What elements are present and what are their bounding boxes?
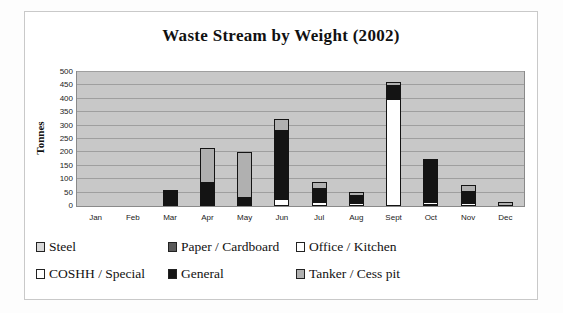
bar-segment-jul-general: [312, 188, 327, 203]
bar-segment-aug-office-kitchen: [349, 203, 364, 206]
y-tick-400: 400: [35, 95, 73, 103]
legend-item-tanker-cess-pit: Tanker / Cess pit: [296, 266, 530, 282]
bar-dec: [487, 72, 524, 206]
x-tick-sept: Sept: [375, 213, 412, 222]
bar-aug: [338, 72, 375, 206]
y-tick-100: 100: [35, 175, 73, 183]
y-tick-350: 350: [35, 108, 73, 116]
bar-oct: [412, 72, 449, 206]
legend-swatch-office-kitchen: [296, 242, 305, 252]
plot-area: 050100150200250300350400450500JanFebMarA…: [76, 71, 525, 207]
legend-swatch-tanker-cess-pit: [296, 269, 305, 279]
bar-nov: [450, 72, 487, 206]
x-tick-dec: Dec: [487, 213, 524, 222]
y-tick-250: 250: [35, 135, 73, 143]
legend: SteelPaper / CardboardOffice / KitchenCO…: [36, 239, 530, 282]
bar-jan: [77, 72, 114, 206]
legend-swatch-paper-cardboard: [168, 242, 177, 252]
legend-item-office-kitchen: Office / Kitchen: [296, 239, 530, 255]
legend-label-office-kitchen: Office / Kitchen: [309, 239, 396, 255]
bar-segment-dec-tanker-cess-pit: [498, 202, 513, 206]
x-tick-mar: Mar: [151, 213, 188, 222]
legend-label-general: General: [181, 266, 224, 282]
bar-segment-mar-general: [163, 190, 178, 206]
legend-label-coshh-special: COSHH / Special: [49, 266, 145, 282]
legend-item-general: General: [168, 266, 296, 282]
bar-segment-may-general: [237, 197, 252, 206]
bar-segment-sept-coshh-special: [386, 99, 401, 206]
bar-sept: [375, 72, 412, 206]
x-tick-jan: Jan: [77, 213, 114, 222]
chart-title: Waste Stream by Weight (2002): [25, 26, 537, 46]
legend-label-tanker-cess-pit: Tanker / Cess pit: [309, 266, 400, 282]
bar-segment-oct-steel: [423, 204, 438, 206]
x-tick-nov: Nov: [450, 213, 487, 222]
bar-segment-nov-office-kitchen: [461, 203, 476, 206]
y-tick-50: 50: [35, 189, 73, 197]
x-tick-aug: Aug: [338, 213, 375, 222]
bar-segment-jun-office-kitchen: [274, 199, 289, 206]
bar-segment-jul-office-kitchen: [312, 202, 327, 206]
x-tick-jul: Jul: [301, 213, 338, 222]
y-tick-200: 200: [35, 148, 73, 156]
y-tick-300: 300: [35, 122, 73, 130]
legend-swatch-coshh-special: [36, 269, 45, 279]
x-tick-oct: Oct: [412, 213, 449, 222]
page: Waste Stream by Weight (2002) Tonnes 050…: [0, 0, 563, 313]
y-tick-150: 150: [35, 162, 73, 170]
legend-swatch-general: [168, 269, 177, 279]
chart-frame: Waste Stream by Weight (2002) Tonnes 050…: [24, 11, 538, 300]
y-tick-450: 450: [35, 81, 73, 89]
bar-jun: [263, 72, 300, 206]
bar-segment-apr-tanker-cess-pit: [200, 148, 215, 183]
legend-swatch-steel: [36, 242, 45, 252]
legend-item-steel: Steel: [36, 239, 168, 255]
bar-may: [226, 72, 263, 206]
y-tick-0: 0: [35, 202, 73, 210]
bar-feb: [114, 72, 151, 206]
bar-jul: [301, 72, 338, 206]
x-tick-may: May: [226, 213, 263, 222]
x-tick-apr: Apr: [189, 213, 226, 222]
legend-item-coshh-special: COSHH / Special: [36, 266, 168, 282]
legend-item-paper-cardboard: Paper / Cardboard: [168, 239, 296, 255]
legend-label-steel: Steel: [49, 239, 76, 255]
bar-segment-apr-general: [200, 182, 215, 206]
y-tick-500: 500: [35, 68, 73, 76]
bar-mar: [151, 72, 188, 206]
bar-segment-may-tanker-cess-pit: [237, 152, 252, 198]
legend-label-paper-cardboard: Paper / Cardboard: [181, 239, 279, 255]
bar-segment-jun-general: [274, 130, 289, 200]
bar-segment-oct-general: [423, 159, 438, 203]
x-tick-feb: Feb: [114, 213, 151, 222]
bar-segment-sept-general: [386, 85, 401, 100]
bar-apr: [189, 72, 226, 206]
x-tick-jun: Jun: [263, 213, 300, 222]
